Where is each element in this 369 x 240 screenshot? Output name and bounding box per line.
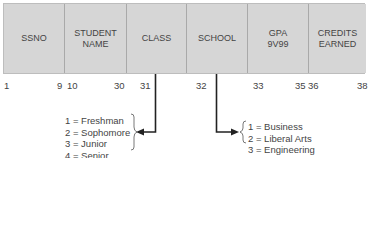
class-code-item: 3 = Junior: [65, 138, 130, 150]
class-code-item: 1 = Freshman: [65, 115, 130, 127]
school-code-item: 2 = Liberal Arts: [248, 133, 315, 145]
school-code-legend: 1 = Business 2 = Liberal Arts 3 = Engine…: [248, 121, 315, 156]
school-code-item: 3 = Engineering: [248, 144, 315, 156]
class-code-legend: 1 = Freshman 2 = Sophomore 3 = Junior 4 …: [65, 115, 130, 158]
class-connector-line: [143, 74, 156, 132]
school-brace-icon: [240, 121, 246, 143]
class-code-item: 2 = Sophomore: [65, 127, 130, 139]
class-code-item: 4 = Senior: [65, 150, 130, 159]
school-arrow-icon: [231, 129, 239, 136]
school-connector-line: [217, 74, 233, 132]
school-code-item: 1 = Business: [248, 121, 315, 133]
class-brace-icon: [131, 114, 137, 150]
